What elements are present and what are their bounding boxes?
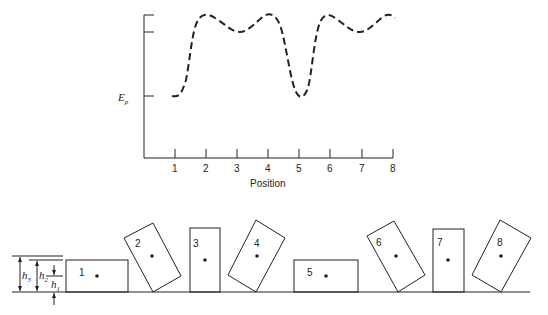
block-label-1: 1 <box>79 267 85 278</box>
h1-label: h1 <box>51 278 60 293</box>
block-label-3: 3 <box>193 238 199 249</box>
x-axis-label: Position <box>250 178 286 189</box>
energy-curve <box>172 14 395 97</box>
h3-label: h3 <box>22 269 32 284</box>
x-tick-label-8: 8 <box>390 163 396 174</box>
block-label-8: 8 <box>497 237 503 248</box>
block-label-6: 6 <box>376 237 382 248</box>
x-tick-label-1: 1 <box>172 163 178 174</box>
h2-label: h2 <box>39 269 49 284</box>
block-label-4: 4 <box>254 238 260 249</box>
energy-chart <box>144 14 395 158</box>
y-axis-label: Ep <box>117 91 129 106</box>
block-label-5: 5 <box>307 267 313 278</box>
block-label-7: 7 <box>437 237 443 248</box>
x-ticks <box>175 149 393 158</box>
x-tick-label-5: 5 <box>296 163 302 174</box>
x-tick-label-7: 7 <box>359 163 365 174</box>
block-label-2: 2 <box>135 238 141 249</box>
x-tick-label-6: 6 <box>327 163 333 174</box>
x-tick-labels: 1 2 3 4 5 6 7 8 <box>172 163 396 174</box>
diagram-canvas: Ep 1 2 3 4 5 6 7 8 Position h3 h2 h1 <box>0 0 548 315</box>
x-tick-label-3: 3 <box>234 163 240 174</box>
centers-of-mass <box>95 254 503 278</box>
x-tick-label-4: 4 <box>265 163 271 174</box>
x-tick-label-2: 2 <box>203 163 209 174</box>
